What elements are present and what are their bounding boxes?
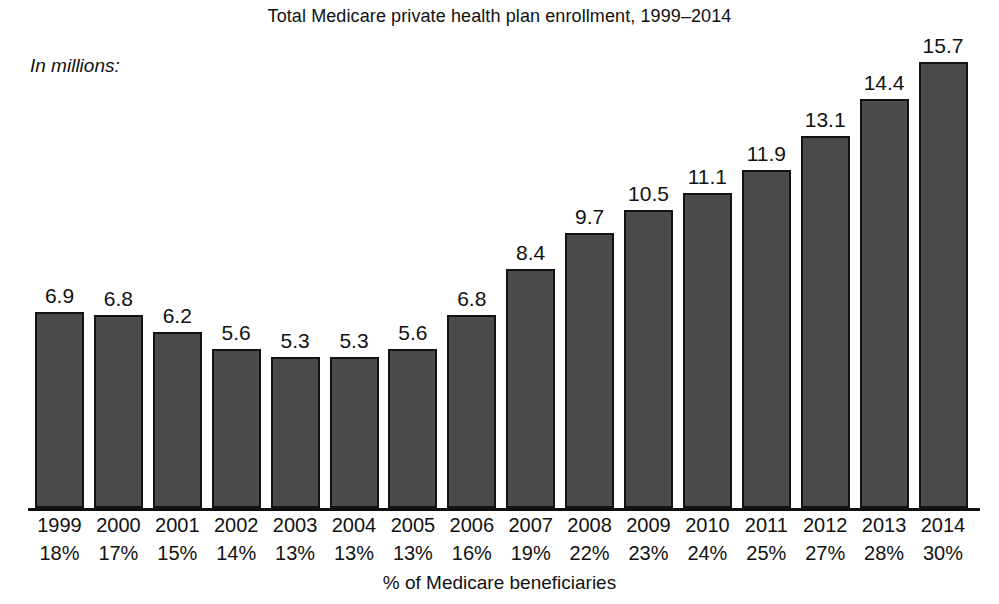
bar-value-label: 6.2 — [163, 305, 192, 326]
x-tick-percent: 30% — [914, 543, 973, 563]
x-tick-year: 2010 — [678, 515, 737, 535]
x-tick-percent: 19% — [501, 543, 560, 563]
bar-value-label: 14.4 — [864, 72, 905, 93]
x-tick-percent: 15% — [148, 543, 207, 563]
x-tick-year: 2013 — [855, 515, 914, 535]
x-tick-percent: 28% — [855, 543, 914, 563]
x-tick-year: 2000 — [89, 515, 148, 535]
bar-value-label: 11.9 — [747, 143, 786, 164]
x-tick-year: 2009 — [619, 515, 678, 535]
plot-area: 6.9199918%6.8200017%6.2200115%5.6200214%… — [0, 0, 999, 604]
bar-value-label: 6.8 — [104, 288, 133, 309]
x-tick-percent: 18% — [30, 543, 89, 563]
x-axis-baseline — [28, 508, 980, 511]
bar[interactable] — [330, 357, 379, 508]
x-tick-year: 2005 — [383, 515, 442, 535]
x-tick-year: 2007 — [501, 515, 560, 535]
x-tick-percent: 17% — [89, 543, 148, 563]
bar[interactable] — [860, 99, 909, 508]
bar-value-label: 13.1 — [805, 109, 846, 130]
bar-value-label: 5.6 — [222, 322, 251, 343]
x-tick-percent: 13% — [325, 543, 384, 563]
bar-value-label: 6.8 — [457, 288, 486, 309]
bar-value-label: 15.7 — [923, 35, 964, 56]
bar-value-label: 5.6 — [398, 322, 427, 343]
x-tick-year: 2004 — [325, 515, 384, 535]
bar-chart: Total Medicare private health plan enrol… — [0, 0, 999, 604]
bar[interactable] — [683, 193, 732, 508]
x-tick-year: 2001 — [148, 515, 207, 535]
x-tick-year: 2011 — [737, 515, 796, 535]
x-tick-year: 2003 — [266, 515, 325, 535]
bar[interactable] — [565, 233, 614, 508]
bar[interactable] — [388, 349, 437, 508]
x-tick-year: 2006 — [442, 515, 501, 535]
x-tick-year: 2002 — [207, 515, 266, 535]
bar[interactable] — [624, 210, 673, 508]
bar-value-label: 5.3 — [339, 330, 368, 351]
bar-value-label: 10.5 — [628, 183, 669, 204]
x-tick-percent: 24% — [678, 543, 737, 563]
x-axis-title: % of Medicare beneficiaries — [0, 572, 999, 594]
bar[interactable] — [153, 332, 202, 508]
bar[interactable] — [271, 357, 320, 508]
bar[interactable] — [801, 136, 850, 508]
bar[interactable] — [212, 349, 261, 508]
bar-value-label: 8.4 — [516, 242, 545, 263]
x-tick-percent: 27% — [796, 543, 855, 563]
bar[interactable] — [447, 315, 496, 508]
bar[interactable] — [35, 312, 84, 508]
bar-value-label: 9.7 — [575, 206, 604, 227]
x-tick-percent: 14% — [207, 543, 266, 563]
x-tick-year: 2014 — [914, 515, 973, 535]
x-tick-percent: 22% — [560, 543, 619, 563]
bar-value-label: 5.3 — [280, 330, 309, 351]
x-tick-percent: 16% — [442, 543, 501, 563]
x-tick-year: 2012 — [796, 515, 855, 535]
x-tick-year: 1999 — [30, 515, 89, 535]
bar[interactable] — [919, 62, 968, 508]
bar-value-label: 11.1 — [688, 166, 727, 187]
x-tick-percent: 13% — [266, 543, 325, 563]
x-tick-year: 2008 — [560, 515, 619, 535]
x-tick-percent: 25% — [737, 543, 796, 563]
bar-value-label: 6.9 — [45, 285, 74, 306]
bar[interactable] — [94, 315, 143, 508]
x-tick-percent: 13% — [383, 543, 442, 563]
bar[interactable] — [742, 170, 791, 508]
bar[interactable] — [506, 269, 555, 508]
x-tick-percent: 23% — [619, 543, 678, 563]
